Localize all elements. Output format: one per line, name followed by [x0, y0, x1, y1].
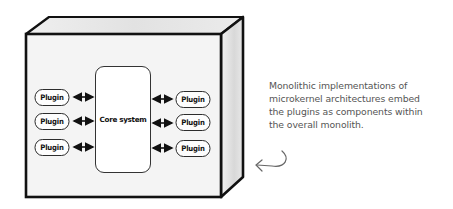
plugin-node-left-3: Plugin: [35, 139, 70, 156]
annotation-line-3: the plugins as components within: [269, 105, 453, 118]
annotation-line-4: the overall monolith.: [269, 118, 453, 131]
curved-arrow-left-icon: [256, 151, 286, 171]
plugin-node-right-1: Plugin: [176, 91, 211, 108]
annotation-text: Monolithic implementations of microkerne…: [269, 79, 453, 131]
plugin-node-left-1: Plugin: [35, 89, 70, 106]
diagram-canvas: Core system Plugin Plugin Plugin Plugin …: [0, 0, 453, 209]
plugin-node-right-3: Plugin: [176, 140, 211, 157]
plugin-node-right-2: Plugin: [176, 114, 211, 131]
annotation-line-1: Monolithic implementations of: [269, 79, 453, 92]
core-system-label: Core system: [100, 115, 147, 124]
core-system-node: Core system: [95, 66, 151, 173]
annotation-line-2: microkernel architectures embed: [269, 92, 453, 105]
plugin-node-left-2: Plugin: [35, 113, 70, 130]
